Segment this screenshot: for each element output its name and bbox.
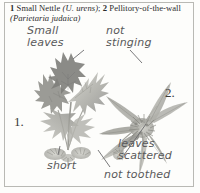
- annotation-not-toothed: not toothed: [104, 169, 171, 181]
- caption-name-1: Small Nettle: [17, 3, 61, 13]
- plant-1-small-nettle: [34, 52, 109, 166]
- caption-scientific-1: (U. urens): [63, 3, 99, 13]
- annotation-small-leaves: Small leaves: [27, 25, 64, 49]
- frame-rule-bottom: [4, 186, 194, 187]
- illustration-plate: 1 Small Nettle (U. urens); 2 Pellitory-o…: [0, 0, 200, 193]
- frame-rule-right: [193, 2, 194, 187]
- plate-number-2: 2.: [165, 85, 175, 101]
- caption-name-2: Pellitory-of-the-wall: [109, 3, 181, 13]
- annotation-not-stinging: not stinging: [106, 25, 152, 49]
- annotation-leaves-scattered: leaves scattered: [118, 138, 172, 162]
- annotation-short: short: [47, 160, 76, 172]
- plate-number-1: 1.: [14, 114, 24, 130]
- plate-caption: 1 Small Nettle (U. urens); 2 Pellitory-o…: [10, 3, 188, 24]
